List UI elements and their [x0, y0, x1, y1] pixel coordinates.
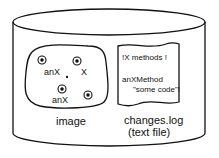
diagram-canvas	[0, 0, 219, 158]
log-line: !X methods !	[122, 53, 167, 63]
image-label: image	[56, 115, 86, 127]
object-label: anX	[44, 67, 60, 77]
object-label: anX	[52, 95, 68, 105]
log-line: anXMethod	[122, 75, 163, 85]
changes-log-sublabel: (text file)	[128, 126, 170, 138]
log-line: "some code"!	[133, 85, 180, 95]
changes-log-label: changes.log	[124, 114, 183, 126]
object-label: X	[81, 67, 87, 77]
object-icons	[38, 56, 92, 99]
